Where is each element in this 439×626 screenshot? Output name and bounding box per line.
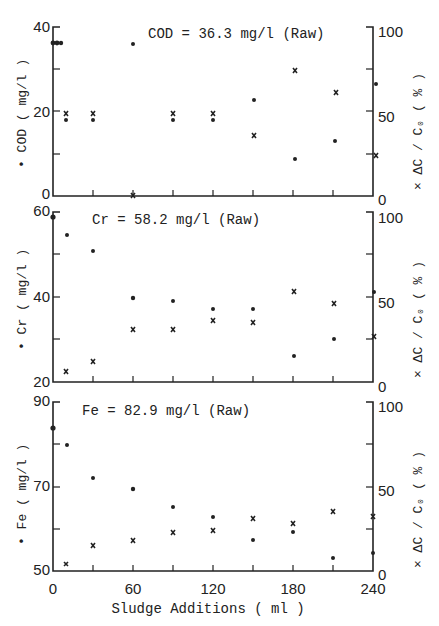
fe-panel-title: Fe = 82.9 mg/l (Raw) <box>82 403 250 419</box>
xtick-0: 0 <box>49 580 57 597</box>
cr-cross-series <box>64 289 376 374</box>
panel-fe-ticks <box>53 444 373 571</box>
cod-ytick-20: 20 <box>33 103 50 120</box>
cod-ytick-0: 0 <box>42 185 50 202</box>
cr-right-tick-0: 0 <box>378 378 386 395</box>
cr-ytick-40: 40 <box>33 288 50 305</box>
cr-right-tick-50: 50 <box>378 294 395 311</box>
cod-cross-series <box>64 68 378 198</box>
cr-dot-series <box>50 214 376 358</box>
fe-ytick-70: 70 <box>33 477 50 494</box>
chart-canvas: 40 20 0 100 50 0 COD = 36.3 mg/l (Raw) •… <box>0 0 439 626</box>
xtick-180: 180 <box>280 580 305 597</box>
x-axis: 0 60 120 180 240 Sludge Additions ( ml ) <box>49 580 386 617</box>
cr-ytick-20: 20 <box>33 373 50 390</box>
cod-left-axis-title: • COD ( mg/l ) <box>15 59 30 168</box>
xtick-240: 240 <box>360 580 385 597</box>
fe-cross-series <box>64 509 375 566</box>
fe-right-tick-100: 100 <box>378 398 403 415</box>
panel-cr: 60 40 20 100 50 0 Cr = 58.2 mg/l (Raw) •… <box>15 202 426 395</box>
xtick-120: 120 <box>200 580 225 597</box>
panel-fe-frame <box>53 402 373 571</box>
cr-ytick-60: 60 <box>33 202 50 219</box>
cod-panel-title: COD = 36.3 mg/l (Raw) <box>148 26 324 42</box>
fe-right-tick-50: 50 <box>378 482 395 499</box>
cr-panel-title: Cr = 58.2 mg/l (Raw) <box>92 212 260 228</box>
figure: 40 20 0 100 50 0 COD = 36.3 mg/l (Raw) •… <box>0 0 439 626</box>
panel-cr-frame <box>53 212 373 382</box>
cod-right-tick-50: 50 <box>378 108 395 125</box>
panel-cod-ticks <box>53 69 373 196</box>
cod-ytick-40: 40 <box>33 18 50 35</box>
fe-ytick-90: 90 <box>33 392 50 409</box>
panel-cr-ticks <box>53 254 373 382</box>
panel-cod: 40 20 0 100 50 0 COD = 36.3 mg/l (Raw) •… <box>15 18 426 208</box>
x-axis-title: Sludge Additions ( ml ) <box>111 601 304 617</box>
cod-right-tick-0: 0 <box>378 191 386 208</box>
cod-right-axis-title: × ΔC / C₀ ( % ) <box>411 73 426 190</box>
cod-right-tick-100: 100 <box>378 23 403 40</box>
cr-left-axis-title: • Cr ( mg/l ) <box>15 249 30 350</box>
fe-left-axis-title: • Fe ( mg/l ) <box>15 444 30 545</box>
cod-dot-series <box>51 41 378 161</box>
fe-right-axis-title: × ΔC / C₀ ( % ) <box>411 451 426 568</box>
panel-cod-frame <box>53 27 373 196</box>
cr-right-tick-100: 100 <box>378 209 403 226</box>
fe-dot-series <box>50 425 375 560</box>
fe-ytick-50: 50 <box>33 561 50 578</box>
cr-right-axis-title: × ΔC / C₀ ( % ) <box>411 261 426 378</box>
panel-fe: 90 70 50 100 50 0 Fe = 82.9 mg/l (Raw) •… <box>15 392 426 583</box>
xtick-60: 60 <box>125 580 142 597</box>
